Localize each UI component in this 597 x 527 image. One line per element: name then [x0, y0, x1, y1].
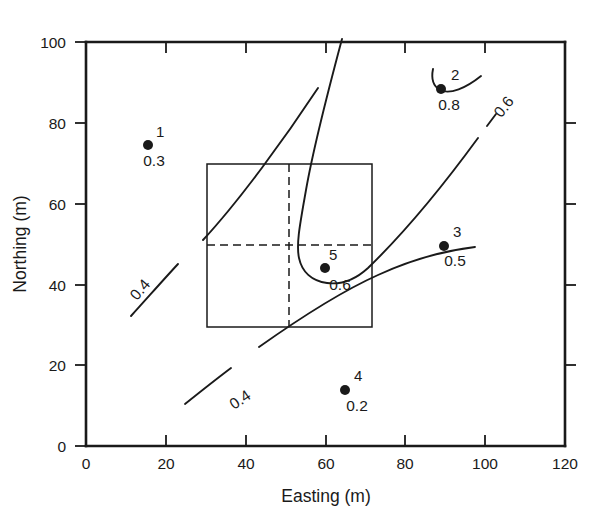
domain-box — [207, 164, 372, 327]
contour-line-segment — [185, 368, 231, 404]
scatter-contour-chart: 0 20 40 60 80 100 120 0 20 40 60 80 100 … — [0, 0, 597, 527]
contour-line-segment — [487, 114, 496, 126]
y-tick-label: 80 — [49, 115, 67, 132]
x-tick-label: 40 — [237, 455, 255, 472]
point-id-label: 3 — [453, 223, 461, 240]
x-tick-label: 80 — [396, 455, 414, 472]
y-tick-label: 40 — [49, 277, 67, 294]
point-value-label: 0.3 — [143, 152, 165, 169]
point-value-label: 0.2 — [346, 397, 368, 414]
data-point-markers — [143, 84, 449, 395]
data-point-marker[interactable] — [439, 241, 449, 251]
contour-0p4-lower — [185, 247, 475, 404]
point-id-label: 5 — [329, 246, 337, 263]
x-tick-label: 120 — [552, 455, 578, 472]
point-value-label: 0.5 — [444, 252, 466, 269]
point-id-label: 1 — [156, 123, 164, 140]
y-tick-label: 0 — [57, 438, 66, 455]
data-point-marker[interactable] — [320, 263, 330, 273]
x-tick-label: 20 — [157, 455, 175, 472]
data-point-marker[interactable] — [340, 385, 350, 395]
x-tick-label: 0 — [82, 455, 91, 472]
x-tick-labels: 0 20 40 60 80 100 120 — [82, 455, 579, 472]
y-tick-labels: 0 20 40 60 80 100 — [40, 34, 66, 455]
point-value-label: 0.8 — [438, 96, 460, 113]
contour-label: 0.4 — [226, 386, 254, 412]
contour-label: 0.4 — [126, 275, 153, 303]
point-value-label: 0.6 — [329, 276, 351, 293]
data-point-id-labels: 1 2 3 4 5 — [156, 66, 461, 384]
figure-canvas: 0 20 40 60 80 100 120 0 20 40 60 80 100 … — [0, 0, 597, 527]
y-tick-label: 60 — [49, 196, 67, 213]
contour-line-segment — [259, 247, 475, 347]
y-axis-title: Northing (m) — [10, 195, 30, 292]
data-point-marker[interactable] — [143, 140, 153, 150]
x-tick-label: 100 — [472, 455, 498, 472]
point-id-label: 4 — [354, 367, 362, 384]
contour-0p6 — [298, 39, 496, 283]
point-id-label: 2 — [451, 66, 459, 83]
y-tick-label: 20 — [49, 357, 67, 374]
data-point-marker[interactable] — [436, 84, 446, 94]
y-tick-label: 100 — [40, 34, 66, 51]
data-point-value-labels: 0.3 0.8 0.5 0.2 0.6 — [143, 96, 466, 414]
x-tick-label: 60 — [317, 455, 335, 472]
x-axis-title: Easting (m) — [281, 486, 370, 506]
